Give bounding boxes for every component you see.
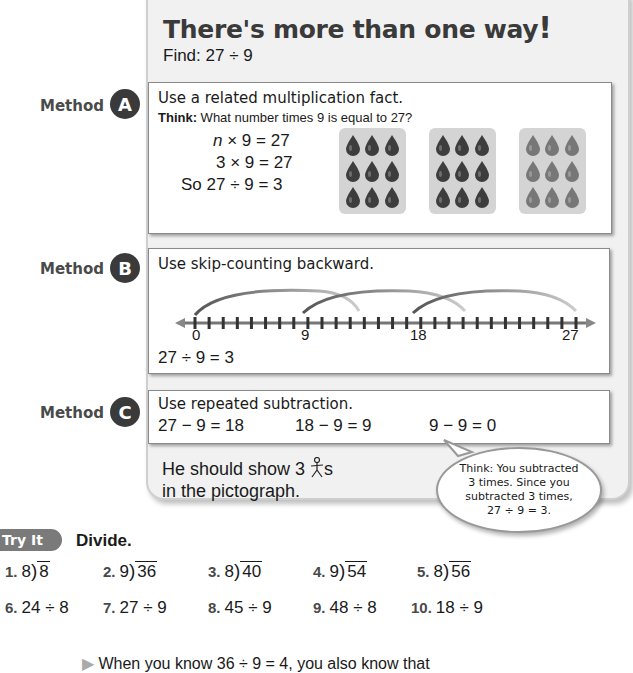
water-drop-icon	[384, 160, 400, 182]
exercise-3: 3.8)40	[208, 560, 262, 582]
water-drop-icon	[364, 186, 380, 208]
water-drop-icon	[345, 186, 361, 208]
exercise-4: 4.9)54	[313, 560, 367, 582]
method-c-heading: Use repeated subtraction.	[158, 395, 353, 413]
drop-group	[519, 128, 586, 214]
method-b-box: Use skip-counting backward. 0 9 18 27 27…	[148, 248, 610, 374]
subtraction-step-1: 27 − 9 = 18	[158, 415, 244, 436]
drop-group	[339, 128, 406, 214]
try-it-instruction: Divide.	[76, 531, 132, 551]
drop-group	[429, 128, 496, 214]
tick-label-9: 9	[301, 326, 309, 343]
subtraction-step-3: 9 − 9 = 0	[429, 415, 496, 436]
water-drop-icon	[564, 134, 580, 156]
water-drop-icon	[454, 134, 470, 156]
exercise-8: 8.45 ÷ 9	[208, 598, 272, 618]
water-drop-icon	[454, 160, 470, 182]
method-c-badge: C	[110, 397, 140, 427]
exercise-7: 7.27 ÷ 9	[103, 598, 167, 618]
tick-label-27: 27	[562, 326, 579, 343]
water-drop-icon	[435, 134, 451, 156]
water-drop-icon	[564, 186, 580, 208]
find-prompt: Find: 27 ÷ 9	[163, 46, 253, 66]
exercise-5: 5.8)56	[417, 560, 471, 582]
method-b-badge: B	[110, 253, 140, 283]
water-drop-icon	[474, 134, 490, 156]
method-a-heading: Use a related multiplication fact.	[158, 89, 403, 107]
equation-2: 3 × 9 = 27	[216, 152, 293, 173]
water-drop-icon	[544, 160, 560, 182]
exercise-6: 6.24 ÷ 8	[5, 598, 69, 618]
exercise-2: 2.9)36	[103, 560, 157, 582]
water-drop-icon	[384, 186, 400, 208]
method-c-box: Use repeated subtraction. 27 − 9 = 18 18…	[148, 390, 610, 444]
water-drop-icon	[345, 160, 361, 182]
water-drop-icon	[345, 134, 361, 156]
cutoff-text: ▶ When you know 36 ÷ 9 = 4, you also kno…	[82, 654, 430, 673]
subtraction-step-2: 18 − 9 = 9	[295, 415, 372, 436]
equation-3: So 27 ÷ 9 = 3	[181, 174, 283, 195]
number-line	[149, 271, 609, 341]
tick-label-18: 18	[410, 326, 427, 343]
method-a-think: Think: What number times 9 is equal to 2…	[158, 110, 412, 125]
water-drop-icon	[525, 186, 541, 208]
water-drop-icon	[525, 134, 541, 156]
exercise-9: 9.48 ÷ 8	[313, 598, 377, 618]
method-b-result: 27 ÷ 9 = 3	[158, 347, 234, 368]
equation-1: n × 9 = 27	[213, 130, 290, 151]
water-drop-icon	[474, 186, 490, 208]
water-drop-icon	[384, 134, 400, 156]
water-drop-icon	[564, 160, 580, 182]
think-bubble: Think: You subtracted 3 times. Since you…	[436, 447, 602, 533]
water-drop-icon	[454, 186, 470, 208]
water-drop-icon	[544, 186, 560, 208]
water-drop-icon	[435, 186, 451, 208]
page-title: There's more than one way!	[163, 10, 552, 45]
method-a-box: Use a related multiplication fact. Think…	[148, 82, 612, 234]
method-a-label: Method	[40, 97, 104, 115]
water-drop-icon	[364, 134, 380, 156]
water-drop-icon	[435, 160, 451, 182]
conclusion-text: He should show 3 s in the pictograph.	[162, 457, 333, 502]
water-drop-icon	[525, 160, 541, 182]
stick-figure-icon	[310, 457, 324, 479]
water-drop-icon	[544, 134, 560, 156]
method-a-badge: A	[110, 89, 140, 119]
water-drop-icon	[474, 160, 490, 182]
method-c-label: Method	[40, 404, 104, 422]
tick-label-0: 0	[192, 326, 200, 343]
exercise-10: 10.18 ÷ 9	[411, 598, 483, 618]
exercise-1: 1.8)8	[5, 560, 50, 582]
method-b-label: Method	[40, 260, 104, 278]
water-drop-icon	[364, 160, 380, 182]
try-it-badge: Try It	[0, 529, 62, 551]
